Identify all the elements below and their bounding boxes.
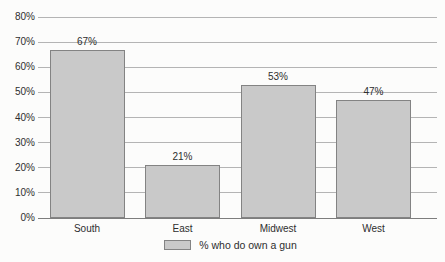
y-axis-tick-label: 70%	[0, 36, 35, 48]
bar-midwest	[241, 85, 316, 218]
bar-chart: 0%10%20%30%40%50%60%70%80%67%South21%Eas…	[0, 0, 445, 262]
bar-value-label-midwest: 53%	[248, 71, 308, 83]
x-axis-category-label-south: South	[42, 223, 132, 235]
y-axis-tick-label: 30%	[0, 137, 35, 149]
y-axis-tick-label: 60%	[0, 61, 35, 73]
x-axis-category-label-midwest: Midwest	[233, 223, 323, 235]
bar-west	[336, 100, 411, 218]
bar-value-label-south: 67%	[57, 36, 117, 48]
y-axis-tick-label: 50%	[0, 86, 35, 98]
y-axis-tick-label: 80%	[0, 11, 35, 23]
x-axis-category-label-west: West	[329, 223, 419, 235]
x-axis-category-label-east: East	[138, 223, 228, 235]
bar-south	[50, 50, 125, 218]
y-axis-tick-label: 40%	[0, 112, 35, 124]
bar-value-label-east: 21%	[153, 151, 213, 163]
y-axis-tick-label: 10%	[0, 187, 35, 199]
gridline-80%	[38, 17, 437, 18]
bar-value-label-west: 47%	[344, 86, 404, 98]
y-axis-tick-label: 20%	[0, 162, 35, 174]
bar-east	[145, 165, 220, 218]
legend-label: % who do own a gun	[199, 239, 296, 251]
plot-area: 0%10%20%30%40%50%60%70%80%67%South21%Eas…	[0, 0, 445, 262]
y-axis-tick-label: 0%	[0, 212, 35, 224]
legend: % who do own a gun	[0, 239, 445, 251]
legend-swatch	[164, 240, 191, 250]
